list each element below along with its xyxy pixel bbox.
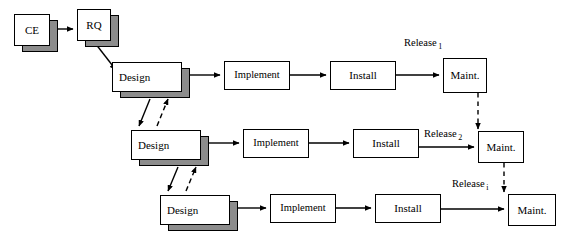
stage-node-ce[interactable]: CE bbox=[14, 14, 50, 46]
release-label-subscript: 2 bbox=[457, 133, 463, 142]
release-label-text: Release bbox=[424, 128, 457, 139]
incremental-process-diagram: CERQDesignImplementInstallMaint.DesignIm… bbox=[0, 0, 572, 241]
stage-node-label: CE bbox=[25, 25, 39, 36]
stage-node-rq[interactable]: RQ bbox=[77, 9, 111, 41]
stage-node-maint-2[interactable]: Maint. bbox=[478, 131, 524, 163]
stage-node-label: Design bbox=[138, 140, 169, 151]
edge-label-release-1: Release1 bbox=[404, 37, 442, 48]
stage-node-implement-1[interactable]: Implement bbox=[224, 61, 290, 90]
stage-node-design-3[interactable]: Design bbox=[160, 195, 230, 225]
stage-node-label: Maint. bbox=[517, 205, 546, 216]
stage-node-label: Install bbox=[349, 70, 377, 81]
stage-node-label: Install bbox=[394, 203, 422, 214]
edge-design-1-to-design-2 bbox=[139, 99, 150, 126]
release-label-subscript: 1 bbox=[437, 42, 443, 51]
stage-node-label: Design bbox=[167, 205, 198, 216]
edge-design-2-to-design-1-feedback bbox=[157, 99, 168, 126]
release-label-subscript: i bbox=[485, 183, 489, 192]
stage-node-label: Implement bbox=[234, 70, 280, 81]
stage-node-label: Maint. bbox=[450, 70, 479, 81]
edge-label-release-3: Releasei bbox=[452, 178, 488, 189]
stage-node-label: Install bbox=[372, 138, 400, 149]
stage-node-install-3[interactable]: Install bbox=[375, 194, 441, 223]
edge-label-release-2: Release2 bbox=[424, 128, 462, 139]
stage-node-implement-2[interactable]: Implement bbox=[243, 129, 309, 158]
stage-node-install-1[interactable]: Install bbox=[330, 61, 396, 90]
stage-node-implement-3[interactable]: Implement bbox=[270, 194, 336, 223]
stage-node-maint-1[interactable]: Maint. bbox=[443, 58, 487, 93]
edge-design-3-to-design-2-feedback bbox=[186, 167, 196, 191]
stage-node-design-2[interactable]: Design bbox=[131, 130, 201, 160]
release-label-text: Release bbox=[452, 178, 485, 189]
stage-node-label: RQ bbox=[86, 20, 101, 31]
stage-node-install-2[interactable]: Install bbox=[353, 129, 419, 158]
stage-node-label: Design bbox=[119, 72, 150, 83]
stage-node-label: Implement bbox=[280, 203, 326, 214]
stage-node-maint-3[interactable]: Maint. bbox=[508, 194, 556, 226]
release-label-text: Release bbox=[404, 37, 437, 48]
stage-node-label: Implement bbox=[253, 138, 299, 149]
stage-node-label: Maint. bbox=[486, 142, 515, 153]
edge-design-2-to-design-3 bbox=[168, 167, 178, 191]
stage-node-design-1[interactable]: Design bbox=[112, 62, 182, 92]
